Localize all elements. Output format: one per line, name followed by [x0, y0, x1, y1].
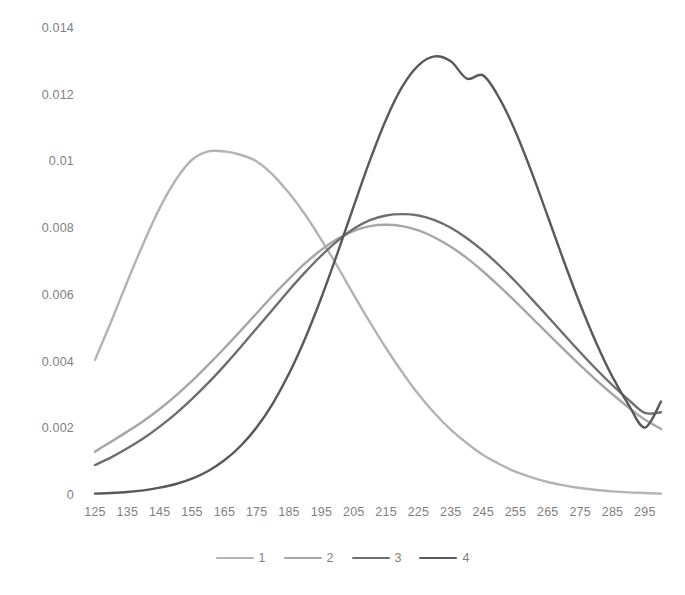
- series-line-2: [95, 225, 661, 452]
- y-tick-label: 0.002: [8, 422, 74, 435]
- x-tick-label: 265: [537, 506, 558, 519]
- legend-swatch-icon: [216, 557, 254, 559]
- y-tick-label: 0.004: [8, 356, 74, 369]
- x-tick-label: 195: [311, 506, 332, 519]
- y-tick-label: 0.014: [8, 22, 74, 35]
- x-tick-label: 175: [246, 506, 267, 519]
- legend-item-3[interactable]: 3: [352, 552, 402, 565]
- legend-swatch-icon: [419, 557, 457, 559]
- x-tick-label: 295: [634, 506, 655, 519]
- y-tick-label: 0: [8, 489, 74, 502]
- y-tick-label: 0.01: [8, 155, 74, 168]
- y-tick-label: 0.008: [8, 222, 74, 235]
- series-line-3: [95, 214, 661, 465]
- x-tick-label: 185: [278, 506, 299, 519]
- series-line-1: [95, 151, 661, 494]
- y-tick-label: 0.006: [8, 289, 74, 302]
- x-tick-label: 235: [440, 506, 461, 519]
- x-tick-label: 245: [472, 506, 493, 519]
- series-line-4: [95, 56, 661, 493]
- legend-item-2[interactable]: 2: [284, 552, 334, 565]
- x-tick-label: 145: [149, 506, 170, 519]
- legend-item-1[interactable]: 1: [216, 552, 266, 565]
- x-axis: 1251351451551651751851952052152252352452…: [0, 506, 685, 526]
- legend-label: 2: [327, 552, 334, 565]
- x-tick-label: 135: [117, 506, 138, 519]
- y-tick-label: 0.012: [8, 89, 74, 102]
- x-tick-label: 205: [343, 506, 364, 519]
- x-tick-label: 125: [84, 506, 105, 519]
- x-tick-label: 165: [214, 506, 235, 519]
- x-tick-label: 285: [602, 506, 623, 519]
- legend-label: 3: [395, 552, 402, 565]
- x-tick-label: 275: [569, 506, 590, 519]
- x-tick-label: 225: [408, 506, 429, 519]
- legend-swatch-icon: [352, 557, 390, 559]
- x-tick-label: 155: [181, 506, 202, 519]
- legend-swatch-icon: [284, 557, 322, 559]
- legend-label: 4: [462, 552, 469, 565]
- legend-label: 1: [259, 552, 266, 565]
- x-tick-label: 255: [505, 506, 526, 519]
- x-tick-label: 215: [375, 506, 396, 519]
- line-chart: 00.0020.0040.0060.0080.010.0120.014 1251…: [0, 0, 685, 595]
- legend-item-4[interactable]: 4: [419, 552, 469, 565]
- chart-legend: 1234: [0, 552, 685, 565]
